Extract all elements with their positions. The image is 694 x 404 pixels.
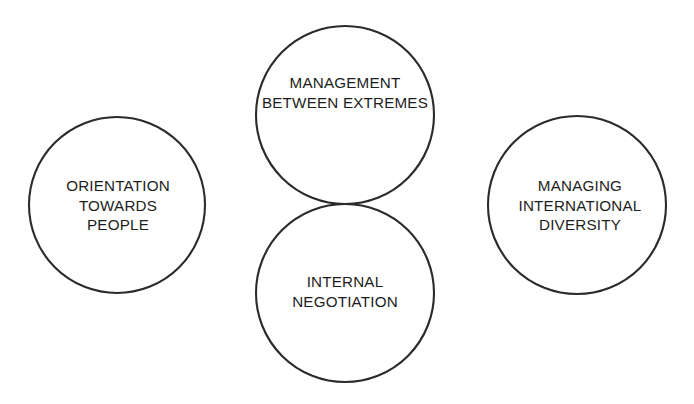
label-line: NEGOTIATION xyxy=(292,291,398,311)
venn-diagram: MANAGEMENT BETWEEN EXTREMES ORIENTATION … xyxy=(0,0,694,404)
label-line: MANAGING xyxy=(519,176,642,196)
label-line: TOWARDS xyxy=(66,195,170,215)
label-line: MANAGEMENT xyxy=(262,73,428,93)
label-line: ORIENTATION xyxy=(66,176,170,196)
circle-management-between-extremes[interactable] xyxy=(256,26,434,204)
label-management-between-extremes: MANAGEMENT BETWEEN EXTREMES xyxy=(262,73,428,112)
label-line: PEOPLE xyxy=(66,215,170,235)
label-orientation-towards-people: ORIENTATION TOWARDS PEOPLE xyxy=(66,176,170,235)
label-line: DIVERSITY xyxy=(519,215,642,235)
label-line: BETWEEN EXTREMES xyxy=(262,92,428,112)
label-line: INTERNAL xyxy=(292,272,398,292)
label-line: INTERNATIONAL xyxy=(519,195,642,215)
label-managing-international-diversity: MANAGING INTERNATIONAL DIVERSITY xyxy=(519,176,642,235)
label-internal-negotiation: INTERNAL NEGOTIATION xyxy=(292,272,398,311)
